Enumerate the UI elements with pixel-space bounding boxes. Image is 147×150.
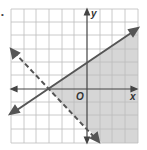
arrow-icon: [11, 49, 19, 58]
bullet: •: [1, 10, 4, 19]
inequality-graph: y x O •: [0, 0, 147, 150]
y-axis-arrow-down-icon: [85, 137, 90, 143]
x-axis-label: x: [129, 91, 136, 102]
x-axis-arrow-left-icon: [11, 87, 17, 92]
y-axis-arrow-up-icon: [85, 9, 90, 15]
shaded-region: [48, 29, 138, 143]
origin-label: O: [76, 91, 84, 102]
y-axis-label: y: [90, 8, 97, 19]
